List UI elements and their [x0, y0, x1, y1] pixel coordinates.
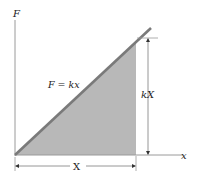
line-equation-label: F = kx: [47, 79, 80, 90]
spring-force-diagram: F x F = kx kX X: [0, 0, 199, 182]
height-dimension-label: kX: [141, 89, 155, 100]
kx-arrow-top: [146, 38, 150, 42]
width-dimension-label: X: [73, 161, 81, 172]
y-axis-label: F: [12, 8, 21, 19]
kx-arrow-bottom: [146, 151, 150, 155]
x-arrow-right: [132, 164, 136, 168]
x-axis-label: x: [181, 150, 187, 161]
x-arrow-left: [15, 164, 19, 168]
